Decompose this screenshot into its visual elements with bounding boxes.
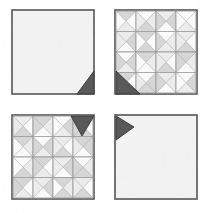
speckle-dot: [191, 106, 192, 107]
panel-pinwheel-top-right-graphic: [114, 9, 198, 95]
speckle-dot: [8, 72, 9, 73]
speckle-dot: [207, 13, 208, 14]
speckle-dot: [201, 137, 202, 138]
speckle-dot: [205, 66, 206, 67]
speckle-dot: [4, 41, 5, 42]
speckle-dot: [182, 200, 183, 201]
speckle-dot: [123, 111, 124, 112]
speckle-dot: [199, 198, 200, 199]
speckle-dot: [179, 212, 180, 213]
speckle-dot: [6, 15, 7, 16]
speckle-dot: [98, 198, 99, 199]
speckle-dot: [205, 143, 206, 144]
speckle-dot: [7, 13, 8, 14]
speckle-dot: [23, 211, 24, 212]
panel-plain-top-left[interactable]: [11, 9, 95, 95]
panel-pinwheel-bottom-left[interactable]: [11, 114, 95, 200]
speckle-dot: [110, 123, 111, 124]
speckle-dot: [185, 98, 186, 99]
panel-plain-bottom-right[interactable]: [114, 114, 198, 200]
speckle-dot: [106, 54, 107, 55]
speckle-dot: [199, 3, 200, 4]
panel-pinwheel-top-right[interactable]: [114, 9, 198, 95]
speckle-dot: [23, 97, 24, 98]
panel-plain-top-left-graphic: [11, 9, 95, 95]
speckle-dot: [25, 105, 26, 106]
speckle-dot: [198, 110, 199, 111]
speckle-dot: [175, 108, 176, 109]
speckle-dot: [2, 36, 3, 37]
speckle-dot: [3, 186, 4, 187]
panel-pinwheel-bottom-left-graphic: [11, 114, 95, 200]
speckle-dot: [161, 209, 162, 210]
speckle-dot: [0, 60, 1, 61]
speckle-dot: [22, 110, 23, 111]
speckle-dot: [134, 109, 135, 110]
speckle-dot: [66, 108, 67, 109]
panel-body: [12, 10, 94, 94]
speckle-dot: [199, 140, 200, 141]
speckle-dot: [179, 108, 180, 109]
speckle-dot: [1, 7, 2, 8]
speckle-dot: [107, 208, 108, 209]
speckle-dot: [107, 27, 108, 28]
speckle-dot: [207, 135, 208, 136]
panel-plain-bottom-right-graphic: [114, 114, 198, 200]
speckle-dot: [200, 41, 201, 42]
quilt-comparison-canvas: [0, 0, 208, 212]
speckle-dot: [110, 20, 111, 21]
speckle-dot: [98, 118, 99, 119]
speckle-dot: [201, 102, 202, 103]
speckle-dot: [3, 86, 4, 87]
pinwheel-grid-top-right: [116, 11, 196, 93]
speckle-dot: [94, 208, 95, 209]
speckle-dot: [2, 94, 3, 95]
speckle-dot: [208, 44, 209, 45]
speckle-dot: [61, 96, 62, 97]
